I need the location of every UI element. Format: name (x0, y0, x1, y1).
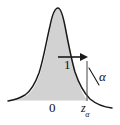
critical-value-label: zα (81, 102, 90, 117)
normal-curve-figure: 0 1 α zα (0, 0, 120, 125)
axis-label-zero: 0 (49, 101, 56, 114)
std-dev-label-one: 1 (64, 58, 71, 71)
alpha-leader-line (89, 68, 99, 85)
normal-curve-svg (0, 0, 120, 125)
tail-area-label-alpha: α (99, 70, 106, 83)
critical-value-subscript: α (85, 110, 89, 119)
shaded-area-under-curve (11, 8, 87, 100)
